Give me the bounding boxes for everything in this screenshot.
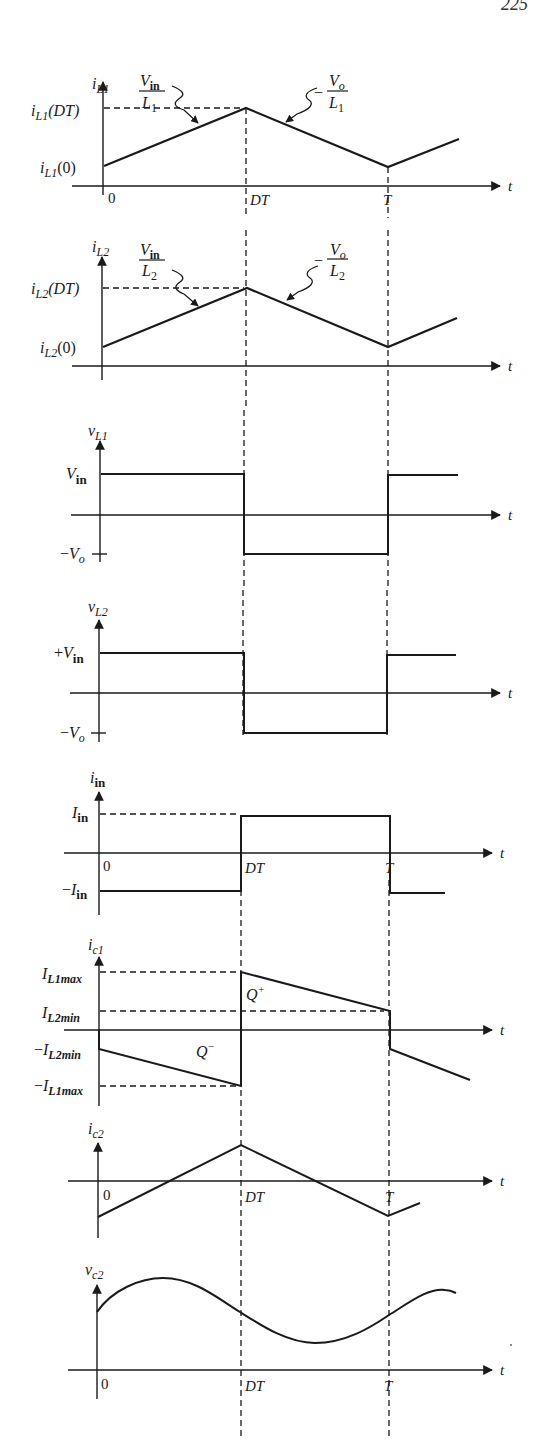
level-IL2min: IL2min (41, 1004, 80, 1025)
panel-vL1 (71, 441, 500, 562)
dt-guide-line (241, 108, 246, 1440)
level-neg-IL2min: −IL2min (34, 1041, 81, 1062)
area-q-minus: Q− (196, 1040, 215, 1060)
waveform (101, 474, 458, 554)
level-IL1max: IL1max (41, 965, 82, 986)
tick-dt: DT (244, 1189, 266, 1205)
svg-text:−: − (314, 252, 323, 269)
level-neg-iin: −Iin (62, 881, 88, 902)
level-neg-vo: −Vo (60, 545, 85, 566)
labels-ic1: ic1 IL1max IL2min −IL2min −IL1max Q+ Q− … (34, 936, 505, 1098)
labels-vc2: vc2 0 DT T t (85, 1261, 505, 1394)
waveform-diagram: iL1 iL1(DT) iL1(0) 0 DT T t Vin L1 − Vo … (0, 0, 542, 1456)
t-axis-label: t (500, 845, 505, 861)
t-axis-label: t (500, 1022, 505, 1038)
ylabel-iin: iin (90, 769, 106, 790)
slope-fraction-fall: − Vo L2 (314, 241, 348, 283)
slope-pointer-fall (287, 266, 318, 300)
panel-iin (64, 792, 492, 915)
t-axis-label: t (508, 685, 513, 701)
level-iL2-0: iL2(0) (40, 339, 76, 360)
level-iL2-dt: iL2(DT) (31, 280, 79, 301)
t-period-guide-line (387, 167, 389, 1440)
tick-t: T (383, 192, 393, 208)
ylabel-iL1: iL1 (92, 75, 109, 96)
tick-zero: 0 (108, 190, 116, 206)
panel-iL1 (72, 82, 500, 195)
waveform (99, 972, 470, 1086)
labels-iin: iin Iin −Iin 0 DT T t (62, 769, 505, 902)
panel-vc2 (68, 1278, 512, 1399)
area-q-plus: Q+ (246, 983, 265, 1003)
tick-zero: 0 (103, 1187, 111, 1203)
panel-ic1 (64, 957, 492, 1106)
labels-ic2: ic2 0 DT T t (88, 1120, 505, 1205)
waveform (103, 288, 457, 347)
tick-t: T (385, 860, 395, 876)
t-axis-label: t (508, 178, 513, 194)
waveform (97, 1278, 456, 1343)
ylabel-iL2: iL2 (92, 238, 109, 259)
labels-vL2: vL2 +Vin −Vo t (54, 598, 513, 745)
panel-iL2 (72, 257, 500, 380)
slope-pointer-rise (172, 86, 198, 123)
svg-text:L2: L2 (329, 262, 345, 283)
level-iin: Iin (71, 804, 89, 825)
svg-text:L2: L2 (141, 262, 157, 283)
labels-vL1: vL1 Vin −Vo t (60, 422, 513, 566)
t-axis-label: t (500, 1362, 505, 1378)
slope-fraction-rise: Vin L2 (139, 241, 165, 283)
level-pos-vin: +Vin (54, 644, 84, 666)
ylabel-vL1: vL1 (88, 422, 108, 443)
ylabel-vc2: vc2 (85, 1261, 103, 1282)
svg-text:L1: L1 (141, 94, 157, 115)
level-vin: Vin (66, 465, 87, 487)
ylabel-ic2: ic2 (88, 1120, 104, 1141)
ylabel-vL2: vL2 (88, 598, 108, 619)
tick-dt: DT (244, 860, 266, 876)
level-neg-IL1max: −IL1max (34, 1077, 83, 1098)
labels-iL2: iL2 iL2(DT) iL2(0) t Vin L2 − Vo L2 (31, 238, 513, 374)
speck (510, 1344, 512, 1346)
level-iL1-0: iL1(0) (40, 159, 76, 180)
slope-pointer-fall (286, 88, 317, 122)
ylabel-ic1: ic1 (88, 936, 104, 957)
tick-t: T (385, 1189, 395, 1205)
svg-text:−: − (314, 84, 323, 101)
level-iL1-dt: iL1(DT) (31, 102, 79, 123)
tick-zero: 0 (103, 858, 111, 874)
level-neg-vo: −Vo (60, 724, 85, 745)
svg-text:Vin: Vin (140, 72, 160, 93)
t-axis-label: t (508, 358, 513, 374)
t-axis-label: t (500, 1173, 505, 1189)
svg-text:Vin: Vin (140, 241, 160, 262)
svg-text:Vo: Vo (329, 72, 345, 93)
tick-t: T (384, 1378, 394, 1394)
waveform (104, 108, 459, 167)
t-axis-label: t (508, 507, 513, 523)
slope-fraction-fall: − Vo L1 (314, 72, 348, 115)
tick-dt: DT (249, 192, 271, 208)
panel-ic2 (68, 1143, 492, 1238)
tick-zero: 0 (101, 1376, 109, 1392)
tick-dt: DT (244, 1378, 266, 1394)
svg-text:L1: L1 (328, 94, 344, 115)
slope-fraction-rise: Vin L1 (139, 72, 165, 115)
waveform (100, 816, 445, 893)
panel-vL2 (70, 620, 500, 742)
